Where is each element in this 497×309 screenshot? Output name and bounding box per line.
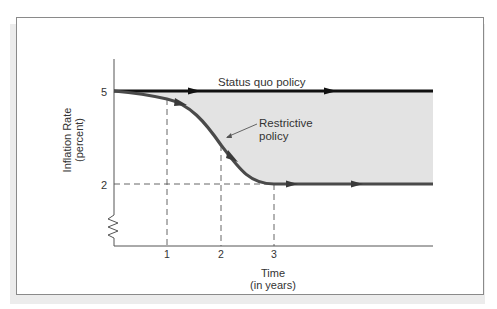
y-axis-label-line1: Inflation Rate <box>61 108 73 173</box>
y-tick-5: 5 <box>101 86 107 98</box>
y-axis-label-line2: (percent) <box>73 118 85 162</box>
x-axis-label-line2: (in years) <box>250 279 296 291</box>
restrictive-label-line2: policy <box>259 130 289 142</box>
y-tick-2: 2 <box>101 179 107 191</box>
inflation-chart: Status quo policy Restrictive policy 5 2… <box>0 0 497 309</box>
x-tick-2: 2 <box>218 248 224 260</box>
status-quo-label: Status quo policy <box>218 76 306 88</box>
restrictive-label-line1: Restrictive <box>259 117 313 129</box>
x-tick-3: 3 <box>271 248 277 260</box>
x-tick-1: 1 <box>164 248 170 260</box>
y-axis <box>108 59 118 246</box>
x-axis-label-line1: Time <box>261 267 285 279</box>
